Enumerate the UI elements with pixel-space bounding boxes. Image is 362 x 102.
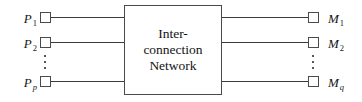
processor-label-1-base: P bbox=[24, 11, 32, 26]
memory-label-1-base: M bbox=[328, 11, 339, 26]
ellipsis-dot bbox=[44, 55, 46, 57]
processor-ellipsis bbox=[42, 55, 48, 69]
memory-label-2: M2 bbox=[328, 37, 360, 52]
memory-label-2-base: M bbox=[328, 36, 339, 51]
processor-label-p-subscript: p bbox=[33, 82, 37, 92]
processor-wire-1 bbox=[51, 17, 124, 18]
memory-label-2-subscript: 2 bbox=[340, 43, 344, 53]
processor-label-p-base: P bbox=[24, 75, 32, 90]
memory-port-2 bbox=[308, 37, 319, 48]
processor-label-2-subscript: 2 bbox=[33, 43, 37, 53]
memory-port-q bbox=[308, 76, 319, 87]
network-box-line-1: Inter- bbox=[158, 26, 188, 42]
network-box-line-2: connection bbox=[143, 42, 202, 58]
processor-port-p bbox=[40, 76, 51, 87]
memory-ellipsis bbox=[310, 55, 316, 69]
processor-label-p: Pp bbox=[8, 76, 36, 91]
interconnection-network-diagram: P1 P2 Pp Inter- connection Network M1 M2 bbox=[0, 0, 362, 102]
memory-label-1: M1 bbox=[328, 12, 360, 27]
processor-wire-p bbox=[51, 81, 124, 82]
ellipsis-dot bbox=[312, 67, 314, 69]
memory-wire-q bbox=[222, 81, 308, 82]
interconnection-network-box: Inter- connection Network bbox=[124, 5, 222, 95]
memory-label-q-base: M bbox=[328, 75, 339, 90]
memory-port-1 bbox=[308, 12, 319, 23]
memory-wire-2 bbox=[222, 42, 308, 43]
processor-port-1 bbox=[40, 12, 51, 23]
processor-label-2: P2 bbox=[8, 37, 36, 52]
memory-label-1-subscript: 1 bbox=[340, 18, 344, 28]
ellipsis-dot bbox=[44, 67, 46, 69]
processor-port-2 bbox=[40, 37, 51, 48]
ellipsis-dot bbox=[312, 61, 314, 63]
network-box-line-3: Network bbox=[149, 58, 196, 74]
ellipsis-dot bbox=[312, 55, 314, 57]
ellipsis-dot bbox=[44, 61, 46, 63]
memory-label-q-subscript: q bbox=[340, 82, 344, 92]
memory-label-q: Mq bbox=[328, 76, 360, 91]
processor-wire-2 bbox=[51, 42, 124, 43]
memory-wire-1 bbox=[222, 17, 308, 18]
processor-label-2-base: P bbox=[24, 36, 32, 51]
processor-label-1: P1 bbox=[8, 12, 36, 27]
processor-label-1-subscript: 1 bbox=[33, 18, 37, 28]
